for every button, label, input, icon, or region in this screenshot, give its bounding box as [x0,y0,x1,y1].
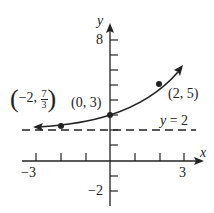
fraction-7-3: 73 [41,89,48,110]
tick-label-neg2: −2 [88,184,103,198]
function-curve [38,72,178,127]
point-0 [107,112,113,118]
point-2 [156,81,162,87]
x-axis-label: x [200,146,206,160]
point-neg2 [58,123,64,129]
tick-label-8: 8 [96,33,103,47]
point-label-2-5: (2, 5) [168,87,198,101]
point-label-0-3: (0, 3) [71,96,101,110]
tick-label-3: 3 [179,166,186,180]
point-label-neg2: (−2, 73) [10,86,56,112]
y-axis-label: y [97,14,103,28]
asymptote-label: y = 2 [160,114,188,128]
tick-label-neg3: −3 [21,166,36,180]
